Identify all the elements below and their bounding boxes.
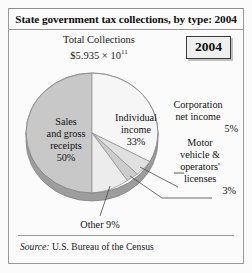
frame-right-border bbox=[243, 8, 244, 264]
slice-label-sales: Sales and gross receipts 50% bbox=[28, 116, 104, 164]
slice-label-motor-pct: 3% bbox=[158, 185, 242, 197]
slice-label-sales-line2: and gross bbox=[28, 128, 104, 140]
title-divider bbox=[8, 29, 244, 30]
total-value-mantissa: $5.935 × 10 bbox=[70, 50, 121, 61]
figure-title: State government tax collections, by typ… bbox=[9, 13, 243, 25]
source-divider bbox=[18, 235, 234, 236]
slice-label-motor-line1: Motor bbox=[158, 137, 242, 149]
slice-label-corporation-line1: Corporation bbox=[152, 99, 244, 111]
slice-label-motor-line4: licenses bbox=[158, 173, 242, 185]
slice-label-corporation-line2: net income bbox=[152, 111, 244, 123]
year-badge: 2004 bbox=[186, 36, 231, 59]
total-collections-block: Total Collections $5.935 × 1011 bbox=[34, 33, 164, 62]
slice-label-corporation-pct: 5% bbox=[152, 123, 244, 135]
slice-label-sales-pct: 50% bbox=[28, 152, 104, 164]
total-collections-label: Total Collections bbox=[34, 33, 164, 46]
slice-label-sales-line3: receipts bbox=[28, 140, 104, 152]
slice-label-motor: Motor vehicle & operators' licenses 3% bbox=[158, 137, 242, 197]
total-collections-value: $5.935 × 1011 bbox=[34, 46, 164, 62]
slice-label-motor-line2: vehicle & bbox=[158, 149, 242, 161]
frame-top-border bbox=[8, 8, 244, 9]
figure-panel: State government tax collections, by typ… bbox=[0, 0, 252, 273]
source-prefix: Source: bbox=[20, 241, 49, 252]
total-value-exponent: 11 bbox=[121, 48, 128, 56]
source-text: U.S. Bureau of the Census bbox=[49, 241, 153, 252]
frame-bottom-border bbox=[8, 263, 244, 264]
slice-label-motor-line3: operators' bbox=[158, 161, 242, 173]
slice-label-sales-line1: Sales bbox=[28, 116, 104, 128]
slice-label-corporation: Corporation net income 5% bbox=[152, 99, 244, 135]
frame-left-border bbox=[8, 8, 9, 264]
slice-label-other: Other 9% bbox=[62, 219, 138, 231]
source-note: Source: U.S. Bureau of the Census bbox=[20, 241, 154, 252]
